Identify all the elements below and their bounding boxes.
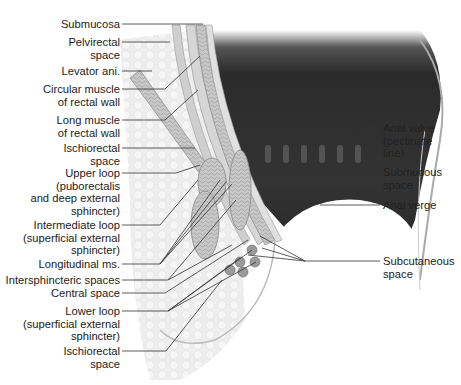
label-submucosa: Submucosa: [61, 18, 120, 31]
label-anal-valve: Anal valve (pectinate line): [383, 122, 435, 160]
label-subcutaneous-space: Subcutaneous space: [383, 255, 455, 280]
label-long-muscle: Long muscle of rectal wall: [57, 114, 120, 139]
internal-sphincter: [229, 150, 251, 230]
label-ischiorectal-space-lower: Ischiorectal space: [63, 345, 120, 370]
label-intersphincteric-spaces: Intersphincteric spaces: [6, 274, 120, 287]
label-lower-loop: Lower loop (superficial external sphinct…: [23, 305, 120, 343]
label-ischiorectal-space-upper: Ischiorectal space: [63, 142, 120, 167]
anatomy-diagram: Submucosa Pelvirectal space Levator ani.…: [0, 0, 461, 385]
label-pelvirectal-space: Pelvirectal space: [68, 36, 120, 61]
label-intermediate-loop: Intermediate loop (superficial external …: [23, 219, 120, 257]
label-circular-muscle: Circular muscle of rectal wall: [43, 83, 120, 108]
label-longitudinal-ms: Longitudinal ms.: [39, 258, 120, 271]
label-levator-ani: Levator ani.: [62, 65, 120, 78]
label-upper-loop: Upper loop (puborectalis and deep extern…: [30, 167, 120, 217]
label-anal-verge: Anal verge: [383, 199, 437, 212]
label-central-space: Central space: [51, 287, 120, 300]
label-submucous-space: Submucous space: [383, 166, 442, 191]
